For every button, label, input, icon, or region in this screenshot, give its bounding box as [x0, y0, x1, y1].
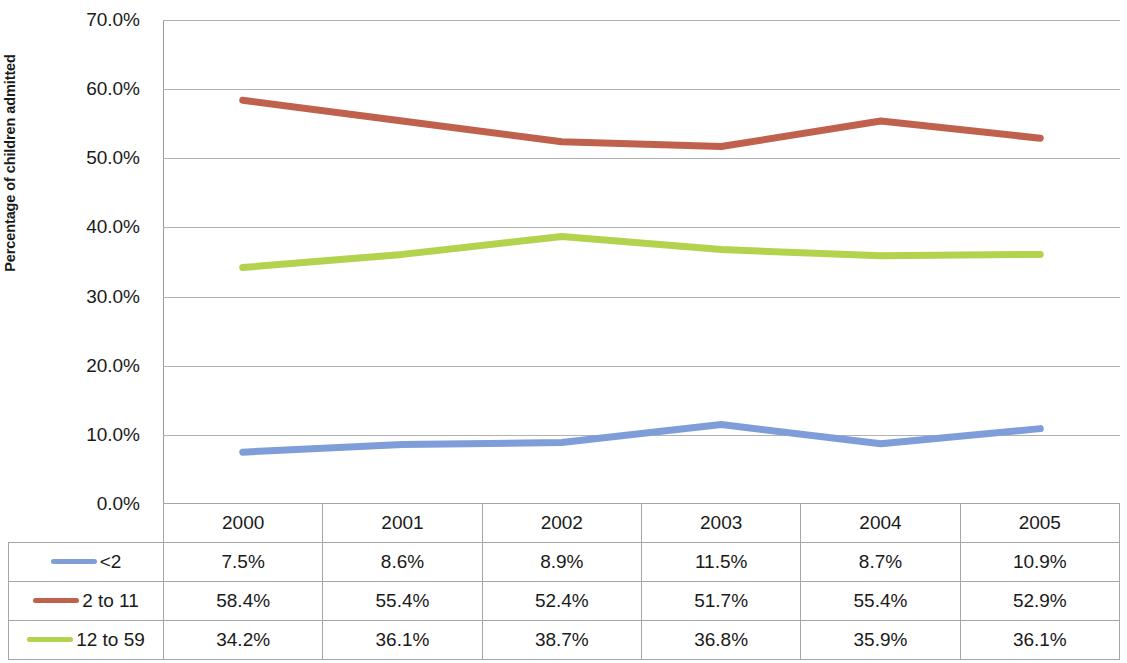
table-cell-value: 35.9% — [801, 621, 960, 660]
table-column-header: 2003 — [641, 504, 800, 543]
y-axis-tick-label: 40.0% — [86, 217, 140, 236]
legend-entry: 12 to 59 — [9, 621, 164, 660]
table-cell-value: 36.1% — [960, 621, 1119, 660]
table-cell-value: 34.2% — [164, 621, 323, 660]
legend-series-label: 2 to 11 — [82, 590, 139, 612]
legend-swatch-icon — [51, 559, 97, 564]
legend-series-label: <2 — [100, 551, 122, 573]
table-column-header: 2000 — [164, 504, 323, 543]
table-cell-value: 8.9% — [482, 543, 641, 582]
table-row: 2 to 1158.4%55.4%52.4%51.7%55.4%52.9% — [9, 582, 1120, 621]
series-line — [243, 100, 1041, 146]
table-corner-cell — [9, 504, 164, 543]
table-cell-value: 58.4% — [164, 582, 323, 621]
table-column-header: 2004 — [801, 504, 960, 543]
legend-swatch-icon — [33, 598, 79, 603]
table-column-header: 2002 — [482, 504, 641, 543]
table-cell-value: 52.4% — [482, 582, 641, 621]
y-axis-tick-label: 30.0% — [86, 287, 140, 306]
legend-entry: 2 to 11 — [9, 582, 164, 621]
table-cell-value: 51.7% — [641, 582, 800, 621]
y-axis-tick-label: 20.0% — [86, 356, 140, 375]
legend-entry: <2 — [9, 543, 164, 582]
table-cell-value: 55.4% — [323, 582, 482, 621]
table-cell-value: 10.9% — [960, 543, 1119, 582]
table-cell-value: 52.9% — [960, 582, 1119, 621]
series-lines — [163, 20, 1120, 504]
y-axis-tick-label: 70.0% — [86, 10, 140, 29]
series-line — [243, 236, 1041, 267]
data-table: 200020012002200320042005 <27.5%8.6%8.9%1… — [8, 503, 1120, 660]
y-axis-tick-label: 60.0% — [86, 79, 140, 98]
table-column-header: 2005 — [960, 504, 1119, 543]
plot-area — [163, 20, 1120, 504]
series-line — [243, 424, 1041, 452]
table-row: 12 to 5934.2%36.1%38.7%36.8%35.9%36.1% — [9, 621, 1120, 660]
table-cell-value: 11.5% — [641, 543, 800, 582]
y-axis-tick-labels: 70.0%60.0%50.0%40.0%30.0%20.0%10.0%0.0% — [40, 0, 152, 520]
legend-series-label: 12 to 59 — [76, 629, 145, 651]
line-chart-with-data-table: Percentage of children admitted 70.0%60.… — [0, 0, 1127, 663]
legend-swatch-icon — [27, 637, 73, 642]
table-cell-value: 8.6% — [323, 543, 482, 582]
table-cell-value: 8.7% — [801, 543, 960, 582]
y-axis-tick-label: 50.0% — [86, 148, 140, 167]
table-row: <27.5%8.6%8.9%11.5%8.7%10.9% — [9, 543, 1120, 582]
table-cell-value: 36.1% — [323, 621, 482, 660]
y-axis-title: Percentage of children admitted — [2, 13, 18, 313]
table-cell-value: 55.4% — [801, 582, 960, 621]
table-cell-value: 38.7% — [482, 621, 641, 660]
table-cell-value: 7.5% — [164, 543, 323, 582]
table-header-row: 200020012002200320042005 — [9, 504, 1120, 543]
y-axis-tick-label: 10.0% — [86, 425, 140, 444]
table-cell-value: 36.8% — [641, 621, 800, 660]
table-column-header: 2001 — [323, 504, 482, 543]
